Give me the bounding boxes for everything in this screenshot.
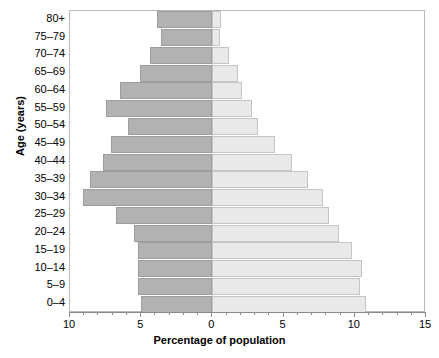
bar-row xyxy=(70,296,424,313)
x-tick-minor xyxy=(325,312,326,315)
x-tick-minor xyxy=(382,312,383,315)
x-tick-minor xyxy=(240,312,241,315)
bar-row xyxy=(70,11,424,28)
bar-left-20-24 xyxy=(134,225,212,242)
plot-area xyxy=(69,10,425,312)
bar-row xyxy=(70,154,424,171)
y-tick-label: 65–69 xyxy=(5,66,65,77)
y-tick-label: 45–49 xyxy=(5,137,65,148)
x-tick-minor xyxy=(126,312,127,315)
bar-left-80+ xyxy=(157,11,213,28)
bar-left-0-4 xyxy=(141,296,212,313)
y-tick-label: 30–34 xyxy=(5,191,65,202)
bar-row xyxy=(70,118,424,135)
bar-row xyxy=(70,225,424,242)
bar-right-30-34 xyxy=(212,189,323,206)
x-tick-minor xyxy=(254,312,255,315)
bar-row xyxy=(70,100,424,117)
bar-left-70-74 xyxy=(150,47,213,64)
x-tick-minor xyxy=(154,312,155,315)
y-tick-label: 5–9 xyxy=(5,279,65,290)
bar-row xyxy=(70,171,424,188)
bar-right-60-64 xyxy=(212,82,242,99)
x-tick-minor xyxy=(297,312,298,315)
bar-right-0-4 xyxy=(212,296,366,313)
x-tick-minor xyxy=(268,312,269,315)
x-tick-major xyxy=(425,312,426,317)
x-tick-minor xyxy=(340,312,341,315)
x-tick-label: 0 xyxy=(208,318,214,330)
y-tick-label: 10–14 xyxy=(5,262,65,273)
bar-row xyxy=(70,29,424,46)
bar-row xyxy=(70,65,424,82)
x-tick-minor xyxy=(112,312,113,315)
bar-left-50-54 xyxy=(128,118,212,135)
bar-row xyxy=(70,82,424,99)
y-tick-label: 35–39 xyxy=(5,173,65,184)
y-tick-label: 80+ xyxy=(5,13,65,24)
bar-row xyxy=(70,278,424,295)
x-tick-minor xyxy=(183,312,184,315)
x-tick-label: 5 xyxy=(280,318,286,330)
bar-row xyxy=(70,207,424,224)
bar-left-60-64 xyxy=(120,82,213,99)
y-tick-label: 40–44 xyxy=(5,155,65,166)
x-tick-major xyxy=(140,312,141,317)
y-axis-labels: 0–45–910–1415–1920–2425–2930–3435–3940–4… xyxy=(3,10,65,312)
bar-right-15-19 xyxy=(212,242,352,259)
x-tick-major xyxy=(211,312,212,317)
x-axis-title: Percentage of population xyxy=(0,334,439,346)
x-tick-major xyxy=(69,312,70,317)
bar-row xyxy=(70,189,424,206)
y-tick-label: 25–29 xyxy=(5,208,65,219)
bar-row xyxy=(70,47,424,64)
bar-left-15-19 xyxy=(138,242,212,259)
bar-left-35-39 xyxy=(90,171,212,188)
y-tick-label: 15–19 xyxy=(5,244,65,255)
y-tick-label: 50–54 xyxy=(5,119,65,130)
bar-left-65-69 xyxy=(140,65,213,82)
x-tick-minor xyxy=(397,312,398,315)
x-tick-minor xyxy=(411,312,412,315)
x-tick-major xyxy=(354,312,355,317)
bar-left-75-79 xyxy=(161,29,212,46)
x-tick-minor xyxy=(226,312,227,315)
bar-right-10-14 xyxy=(212,260,362,277)
x-tick-minor xyxy=(169,312,170,315)
x-tick-minor xyxy=(311,312,312,315)
bar-left-30-34 xyxy=(83,189,213,206)
bar-right-70-74 xyxy=(212,47,229,64)
x-tick-minor xyxy=(368,312,369,315)
bar-right-45-49 xyxy=(212,136,275,153)
bar-right-5-9 xyxy=(212,278,360,295)
bar-row xyxy=(70,260,424,277)
bar-right-50-54 xyxy=(212,118,258,135)
x-tick-major xyxy=(283,312,284,317)
bar-right-55-59 xyxy=(212,100,252,117)
bar-left-5-9 xyxy=(138,278,212,295)
x-tick-minor xyxy=(97,312,98,315)
bar-right-40-44 xyxy=(212,154,292,171)
x-tick-minor xyxy=(83,312,84,315)
x-tick-label: 10 xyxy=(348,318,360,330)
y-tick-label: 0–4 xyxy=(5,297,65,308)
x-tick-label: 15 xyxy=(419,318,431,330)
bar-right-80+ xyxy=(212,11,221,28)
y-tick-label: 75–79 xyxy=(5,31,65,42)
bar-left-55-59 xyxy=(106,100,213,117)
bar-right-25-29 xyxy=(212,207,329,224)
y-tick-label: 55–59 xyxy=(5,102,65,113)
y-tick-label: 60–64 xyxy=(5,84,65,95)
bar-right-35-39 xyxy=(212,171,307,188)
x-axis: 105051015 xyxy=(69,312,425,313)
bar-left-25-29 xyxy=(116,207,213,224)
bar-row xyxy=(70,242,424,259)
x-tick-label: 5 xyxy=(137,318,143,330)
y-tick-label: 70–74 xyxy=(5,48,65,59)
x-tick-minor xyxy=(197,312,198,315)
bar-row xyxy=(70,136,424,153)
population-pyramid-chart: Age (years) 0–45–910–1415–1920–2425–2930… xyxy=(0,0,439,358)
y-tick-label: 20–24 xyxy=(5,226,65,237)
bar-left-45-49 xyxy=(111,136,212,153)
x-tick-label: 10 xyxy=(63,318,75,330)
